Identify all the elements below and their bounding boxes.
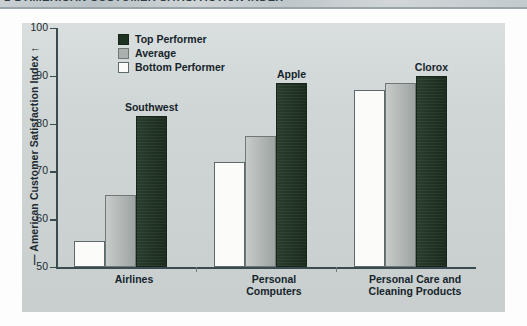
legend: Top Performer Average Bottom Performer — [118, 33, 225, 75]
legend-item-top-performer[interactable]: Top Performer — [118, 33, 225, 45]
y-tick-80 — [50, 124, 56, 125]
y-tick-label-60: 60 — [22, 212, 48, 224]
legend-label-bottom-performer: Bottom Performer — [135, 61, 225, 73]
y-tick-label-80: 80 — [22, 117, 48, 129]
bar-airlines-average[interactable] — [105, 195, 136, 267]
annotation-southwest: Southwest — [125, 101, 178, 113]
y-tick-70 — [50, 171, 56, 172]
y-tick-label-70: 70 — [22, 164, 48, 176]
bar-personal-computers-average[interactable] — [245, 136, 276, 268]
category-label-personal-care-line2: Cleaning Products — [340, 285, 490, 297]
x-axis-separator-2 — [336, 267, 337, 272]
y-tick-60 — [50, 219, 56, 220]
figure-paper: — American Customer Satisfaction Index ↑… — [0, 9, 527, 326]
bar-personal-care-top-performer[interactable]: Clorox — [416, 76, 447, 267]
up-arrow-icon: ↑ — [28, 47, 40, 53]
category-label-personal-computers: Personal Computers — [214, 273, 334, 297]
bar-personal-computers-top-performer[interactable]: Apple — [276, 83, 307, 267]
category-label-personal-computers-line2: Computers — [214, 285, 334, 297]
x-axis-separator-1 — [196, 267, 197, 272]
category-label-personal-care-line1: Personal Care and — [340, 273, 490, 285]
y-tick-label-100: 100 — [22, 21, 48, 33]
bar-personal-care-average[interactable] — [385, 83, 416, 267]
bar-airlines-top-performer[interactable]: Southwest — [136, 116, 167, 267]
page-title: 1-1 AMERICAN CUSTOMER SATISFACTION INDEX — [4, 0, 283, 3]
bar-personal-computers-bottom-performer[interactable] — [214, 162, 245, 267]
legend-item-bottom-performer[interactable]: Bottom Performer — [118, 61, 225, 73]
y-tick-label-50: 50 — [22, 260, 48, 272]
legend-swatch-bottom-performer — [118, 62, 129, 73]
page-title-strip: 1-1 AMERICAN CUSTOMER SATISFACTION INDEX — [0, 0, 527, 7]
bar-airlines-bottom-performer[interactable] — [74, 241, 105, 267]
legend-item-average[interactable]: Average — [118, 47, 225, 59]
bar-group-personal-care: Clorox — [354, 28, 474, 267]
annotation-clorox: Clorox — [415, 61, 448, 73]
bar-group-personal-computers: Apple — [214, 28, 334, 267]
y-tick-label-90: 90 — [22, 69, 48, 81]
y-tick-90 — [50, 76, 56, 77]
category-label-airlines: Airlines — [74, 273, 194, 285]
category-label-personal-computers-line1: Personal — [214, 273, 334, 285]
legend-swatch-average — [118, 48, 129, 59]
legend-swatch-top-performer — [118, 34, 129, 45]
annotation-apple: Apple — [277, 68, 306, 80]
legend-label-top-performer: Top Performer — [135, 33, 207, 45]
y-tick-50 — [50, 267, 56, 268]
legend-label-average: Average — [135, 47, 176, 59]
category-label-airlines-line1: Airlines — [74, 273, 194, 285]
y-axis-line — [56, 28, 58, 267]
x-axis-line — [56, 267, 476, 269]
y-tick-100 — [50, 28, 56, 29]
bar-personal-care-bottom-performer[interactable] — [354, 90, 385, 267]
category-label-personal-care: Personal Care and Cleaning Products — [340, 273, 490, 297]
